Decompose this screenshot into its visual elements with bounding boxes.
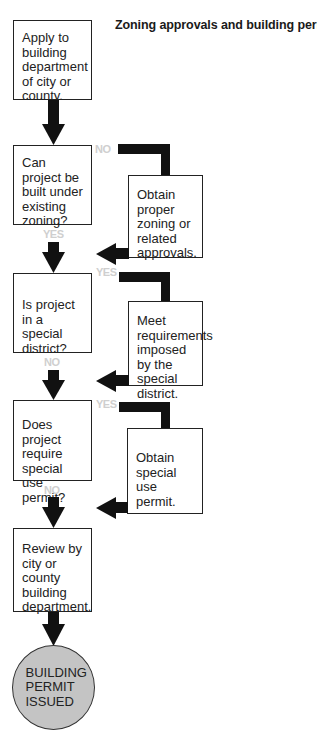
arrow-left-icon [96, 370, 129, 392]
side-action-special-use: Obtain special use permit. [127, 428, 203, 514]
side-action-zoning-text: Obtain proper zoning or related approval… [137, 187, 197, 260]
arrow-left-icon [96, 243, 129, 265]
branch-label-yes: YES [96, 398, 117, 410]
step-special-use-question: Does project require special use permit? [13, 400, 92, 481]
step-apply-text: Apply to building department of city or … [22, 30, 88, 103]
main-label-yes: YES [43, 228, 64, 240]
step-zoning-question-text: Can project be built under existing zoni… [22, 155, 83, 228]
step-review: Review by city or county building depart… [13, 528, 92, 612]
arrow-down-icon [42, 370, 65, 400]
step-apply: Apply to building department of city or … [13, 20, 92, 100]
branch-label-no: NO [95, 143, 111, 155]
arrow-down-icon [42, 612, 65, 646]
step-zoning-question: Can project be built under existing zoni… [13, 145, 92, 225]
branch-connector [161, 402, 170, 429]
arrow-left-icon [96, 497, 128, 519]
branch-connector [161, 144, 170, 176]
result-building-permit-issued: BUILDING PERMIT ISSUED [12, 645, 95, 730]
arrow-down-icon [42, 497, 65, 528]
main-label-no: NO [44, 484, 60, 496]
step-special-district-question: Is project in a special district? [13, 273, 92, 353]
side-action-special-district-text: Meet requirements imposed by the special… [137, 313, 213, 401]
result-text: BUILDING PERMIT ISSUED [26, 666, 82, 710]
step-special-district-question-text: Is project in a special district? [22, 297, 75, 356]
side-action-special-use-text: Obtain special use permit. [136, 450, 176, 509]
side-action-special-district: Meet requirements imposed by the special… [128, 301, 203, 386]
side-action-zoning: Obtain proper zoning or related approval… [128, 175, 203, 258]
diagram-title: Zoning approvals and building permits. [115, 18, 317, 32]
step-review-text: Review by city or county building depart… [22, 541, 91, 614]
arrow-down-icon [42, 100, 65, 145]
arrow-down-icon [42, 242, 65, 273]
main-label-no: NO [44, 356, 60, 368]
branch-label-yes: YES [96, 266, 117, 278]
branch-connector [161, 272, 170, 302]
